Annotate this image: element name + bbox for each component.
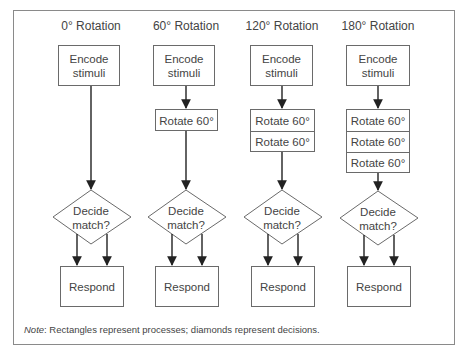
rotate-step: Rotate 60° — [347, 152, 409, 173]
decide-line1: Decide — [168, 205, 204, 217]
rotate-step: Rotate 60° — [347, 110, 409, 131]
decide-line2: match? — [263, 219, 301, 231]
encode-label-line2: stimuli — [168, 67, 201, 79]
encode-label-line2: stimuli — [362, 67, 395, 79]
encode-stimuli-box: Encodestimuli — [58, 45, 120, 86]
respond-box: Respond — [347, 266, 411, 307]
rotate-stack-60: Rotate 60° — [155, 109, 218, 131]
encode-stimuli-box: Encodestimuli — [346, 45, 410, 86]
encode-stimuli-box: Encodestimuli — [153, 45, 215, 86]
encode-label-line1: Encode — [164, 53, 203, 65]
rotate-step: Rotate 60° — [251, 131, 314, 152]
column-title-60-rotation: 60° Rotation — [136, 19, 236, 33]
decide-match-label: Decidematch? — [338, 205, 418, 233]
decide-line1: Decide — [264, 205, 300, 217]
note-prefix: Note — [24, 324, 44, 335]
note-text: : Rectangles represent processes; diamon… — [44, 324, 320, 335]
encode-label-line1: Encode — [69, 53, 108, 65]
figure-note: Note: Rectangles represent processes; di… — [24, 324, 320, 335]
decide-line2: match? — [167, 219, 205, 231]
column-title-180-rotation: 180° Rotation — [328, 19, 428, 33]
rotate-step: Rotate 60° — [156, 110, 217, 131]
rotate-step: Rotate 60° — [251, 110, 314, 131]
column-title-0-rotation: 0° Rotation — [41, 19, 141, 33]
decide-line1: Decide — [73, 205, 109, 217]
column-title-120-rotation: 120° Rotation — [232, 19, 332, 33]
decide-line2: match? — [359, 220, 397, 232]
encode-label-line2: stimuli — [265, 67, 298, 79]
decide-match-label: Decidematch? — [242, 204, 322, 232]
respond-box: Respond — [60, 266, 124, 307]
encode-label-line2: stimuli — [73, 67, 106, 79]
respond-box: Respond — [251, 266, 315, 307]
rotate-step: Rotate 60° — [347, 131, 409, 152]
decide-match-label: Decidematch? — [146, 204, 226, 232]
decide-line2: match? — [72, 219, 110, 231]
column-0-connectors — [53, 86, 131, 265]
encode-stimuli-box: Encodestimuli — [250, 45, 313, 86]
rotate-stack-180: Rotate 60° Rotate 60° Rotate 60° — [346, 109, 410, 173]
encode-label-line1: Encode — [262, 53, 301, 65]
respond-box: Respond — [155, 266, 219, 307]
encode-label-line1: Encode — [358, 53, 397, 65]
decide-line1: Decide — [360, 206, 396, 218]
decide-match-label: Decidematch? — [51, 204, 131, 232]
rotate-stack-120: Rotate 60° Rotate 60° — [250, 109, 315, 152]
